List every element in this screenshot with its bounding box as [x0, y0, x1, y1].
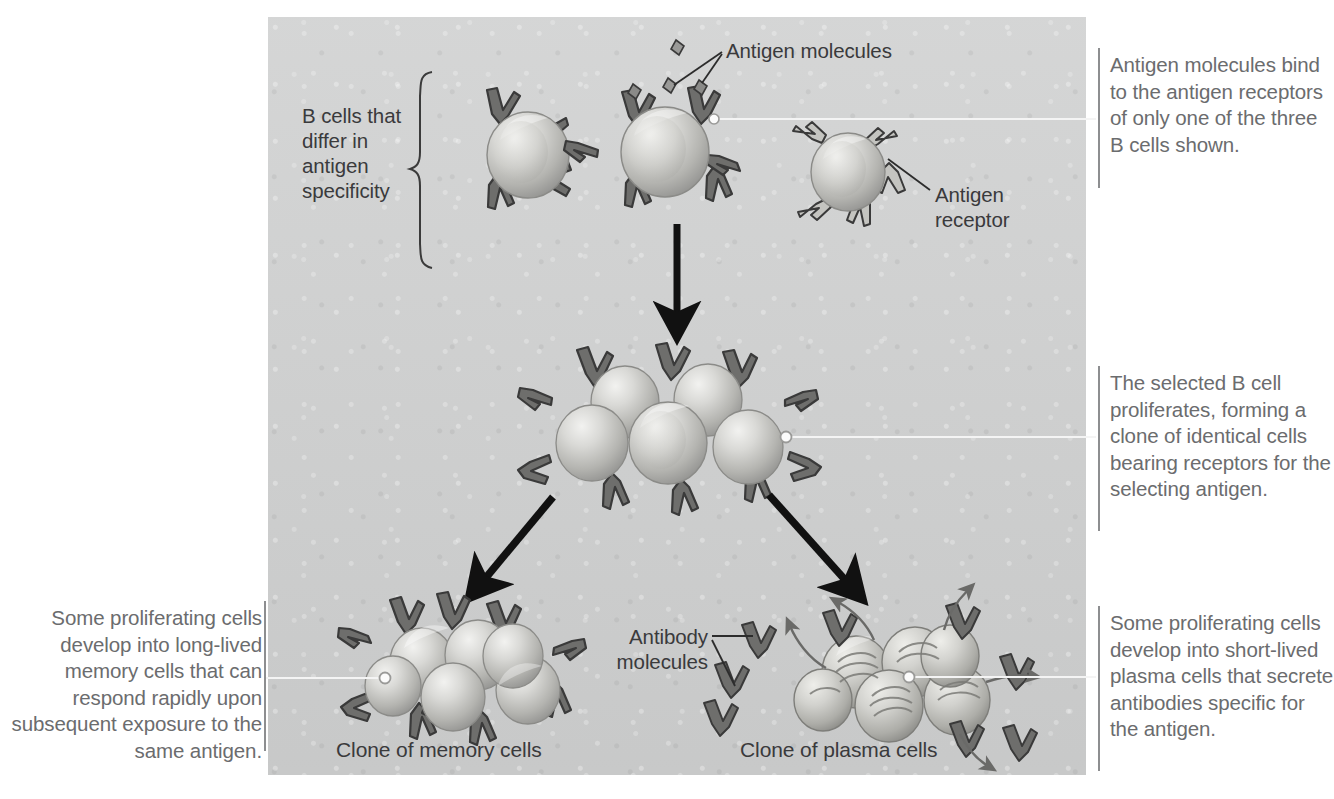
caption-rule-bottom-left: [264, 601, 266, 751]
figure-canvas: Antigen molecules bind to the antigen re…: [0, 0, 1334, 799]
caption-rule-middle-right: [1098, 366, 1100, 531]
caption-bottom-right: Some proliferating cells develop into sh…: [1110, 610, 1334, 743]
label-antigen-molecules: Antigen molecules: [726, 38, 892, 63]
caption-bottom-left: Some proliferating cells develop into lo…: [4, 605, 262, 765]
label-antigen-receptor: Antigen receptor: [935, 182, 1009, 232]
caption-top-right: Antigen molecules bind to the antigen re…: [1110, 52, 1334, 158]
caption-middle-right: The selected B cell proliferates, formin…: [1110, 370, 1334, 503]
label-b-cells-differ: B cells that differ in antigen specifici…: [302, 103, 412, 203]
label-clone-of-plasma-cells: Clone of plasma cells: [740, 738, 938, 762]
caption-rule-top-right: [1098, 48, 1100, 188]
caption-rule-bottom-right: [1098, 606, 1100, 771]
label-antibody-molecules: Antibody molecules: [598, 624, 708, 674]
label-clone-of-memory-cells: Clone of memory cells: [336, 738, 542, 762]
